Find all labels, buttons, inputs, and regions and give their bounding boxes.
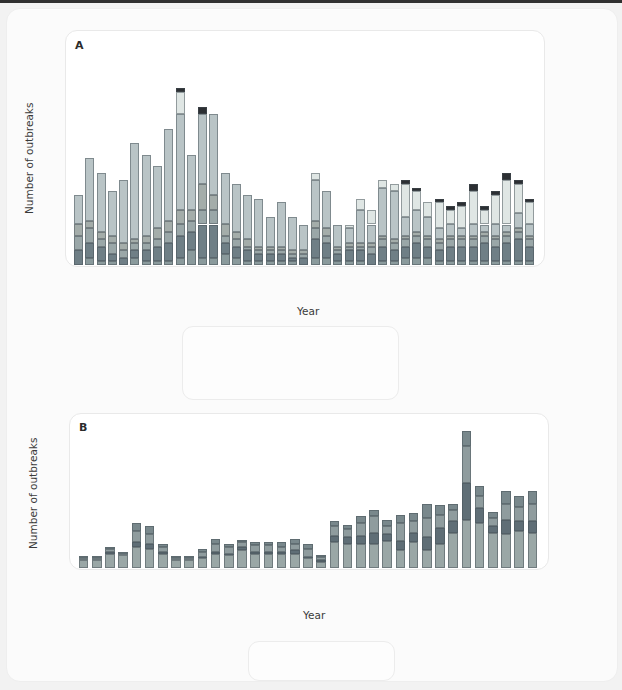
bar-segment-multiple bbox=[446, 206, 455, 210]
bar-2000 bbox=[401, 44, 410, 265]
bar-segment-other bbox=[264, 545, 274, 551]
bar-segment-agi bbox=[528, 533, 538, 568]
bar-segment-parasitic bbox=[435, 261, 444, 265]
bar-segment-agi bbox=[396, 550, 406, 568]
bar-segment-parasitic bbox=[412, 258, 421, 265]
bar-2009 bbox=[488, 423, 498, 568]
bar-segment-legionella-spp- bbox=[446, 210, 455, 225]
bar-segment-viral bbox=[525, 239, 534, 246]
bar-segment-bacterial bbox=[446, 247, 455, 262]
bar-1972 bbox=[85, 44, 94, 265]
bar-segment-bacterial bbox=[97, 247, 106, 262]
bar-segment-viral bbox=[130, 243, 139, 250]
bar-segment-agi bbox=[382, 541, 392, 568]
bar-segment-skin bbox=[145, 526, 155, 534]
bar-segment-skin bbox=[330, 521, 340, 526]
bar-segment-bacterial bbox=[378, 247, 387, 262]
bar-segment-bacterial bbox=[356, 250, 365, 261]
bar-segment-parasitic bbox=[254, 261, 263, 265]
bar-segment-ari bbox=[409, 533, 419, 543]
bar-segment-agi bbox=[435, 544, 445, 568]
bar-segment-agi bbox=[79, 560, 89, 568]
bar-segment-multiple bbox=[502, 173, 511, 180]
bar-1982 bbox=[132, 423, 142, 568]
figure-page: A Number of outbreaks Year B Number of o… bbox=[6, 8, 618, 682]
bar-segment-bacterial bbox=[288, 258, 297, 262]
bar-segment-unidentified bbox=[367, 225, 376, 243]
bar-segment-skin bbox=[396, 515, 406, 523]
bar-segment-parasitic bbox=[446, 261, 455, 265]
bar-segment-viral bbox=[232, 239, 241, 246]
bar-segment-viral bbox=[345, 247, 354, 251]
bar-segment-viral bbox=[176, 224, 185, 235]
bar-1979 bbox=[164, 44, 173, 265]
bar-1991 bbox=[299, 44, 308, 265]
bar-segment-agi bbox=[343, 544, 353, 568]
bar-segment-skin bbox=[356, 516, 366, 522]
bar-segment-parasitic bbox=[97, 261, 106, 265]
bar-2008 bbox=[475, 423, 485, 568]
bar-segment-agi bbox=[92, 560, 102, 568]
bar-segment-legionella-spp- bbox=[491, 195, 500, 224]
bar-segment-other bbox=[435, 515, 445, 528]
bar-segment-bacterial bbox=[266, 254, 275, 261]
bar-segment-other bbox=[501, 504, 511, 520]
bar-segment-parasitic bbox=[153, 261, 162, 265]
bar-segment-skin bbox=[264, 542, 274, 545]
bar-1973 bbox=[97, 44, 106, 265]
bar-segment-agi bbox=[132, 547, 142, 568]
bar-1993 bbox=[322, 44, 331, 265]
bar-segment-ari bbox=[145, 544, 155, 549]
bar-segment-unidentified bbox=[221, 173, 230, 225]
bar-segment-viral bbox=[469, 239, 478, 246]
bar-1980 bbox=[176, 44, 185, 265]
bar-segment-chemical bbox=[367, 243, 376, 247]
bar-segment-ari bbox=[528, 521, 538, 532]
bar-segment-bacterial bbox=[187, 232, 196, 250]
bar-segment-ari bbox=[343, 537, 353, 543]
bar-segment-parasitic bbox=[322, 258, 331, 265]
bar-1986 bbox=[243, 44, 252, 265]
bar-segment-chemical bbox=[491, 236, 500, 240]
bar-1983 bbox=[145, 423, 155, 568]
bar-segment-unidentified bbox=[480, 225, 489, 232]
bar-1999 bbox=[390, 44, 399, 265]
bar-segment-chemical bbox=[423, 236, 432, 240]
bar-segment-chemical bbox=[187, 210, 196, 221]
bar-segment-ari bbox=[237, 547, 247, 550]
bar-segment-other bbox=[158, 547, 168, 552]
bar-1982 bbox=[198, 44, 207, 265]
bar-2009 bbox=[502, 44, 511, 265]
bar-segment-skin bbox=[290, 539, 300, 544]
bar-2007 bbox=[462, 423, 472, 568]
bar-segment-legionella-spp- bbox=[367, 210, 376, 225]
bar-1995 bbox=[345, 44, 354, 265]
bar-segment-viral bbox=[266, 250, 275, 254]
bar-segment-bacterial bbox=[119, 258, 128, 265]
bar-segment-skin bbox=[343, 525, 353, 530]
bar-segment-bacterial bbox=[502, 243, 511, 261]
bar-segment-other bbox=[488, 518, 498, 526]
bar-segment-bacterial bbox=[164, 243, 173, 261]
bar-segment-bacterial bbox=[390, 250, 399, 261]
bar-1992 bbox=[311, 44, 320, 265]
bar-segment-unidentified bbox=[378, 188, 387, 236]
bar-segment-chemical bbox=[412, 232, 421, 236]
bar-segment-chemical bbox=[378, 236, 387, 240]
bar-segment-bacterial bbox=[232, 247, 241, 258]
bar-segment-agi bbox=[211, 554, 221, 569]
bar-segment-ari bbox=[514, 521, 524, 531]
bar-segment-viral bbox=[412, 236, 421, 243]
bar-segment-bacterial bbox=[299, 258, 308, 265]
bar-1979 bbox=[92, 423, 102, 568]
bar-segment-agi bbox=[330, 542, 340, 568]
bar-segment-chemical bbox=[108, 236, 117, 243]
bar-segment-legionella-spp- bbox=[378, 180, 387, 187]
bar-segment-multiple bbox=[525, 199, 534, 203]
bar-segment-parasitic bbox=[277, 261, 286, 265]
bar-segment-viral bbox=[367, 247, 376, 254]
bar-segment-unidentified bbox=[108, 191, 117, 235]
bar-segment-viral bbox=[299, 254, 308, 258]
bar-segment-chemical bbox=[232, 232, 241, 239]
bar-1981 bbox=[187, 44, 196, 265]
